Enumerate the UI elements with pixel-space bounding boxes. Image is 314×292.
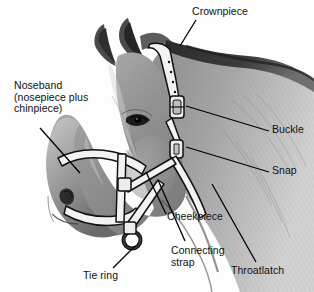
label-crownpiece: Crownpiece bbox=[192, 6, 248, 18]
label-noseband: Noseband (nosepiece plus chinpiece) bbox=[14, 80, 88, 115]
label-connecting-strap: Connecting strap bbox=[171, 245, 225, 268]
label-cheekpiece: Cheekpiece bbox=[167, 211, 223, 223]
label-tie-ring: Tie ring bbox=[83, 270, 118, 282]
label-snap: Snap bbox=[272, 165, 297, 177]
cheek-junction-hardware bbox=[118, 178, 131, 191]
label-buckle: Buckle bbox=[272, 124, 304, 136]
label-throatlatch: Throatlatch bbox=[231, 265, 284, 277]
snap-hardware bbox=[170, 140, 183, 158]
buckle-hardware bbox=[170, 96, 184, 118]
horse-halter-diagram bbox=[0, 0, 314, 292]
